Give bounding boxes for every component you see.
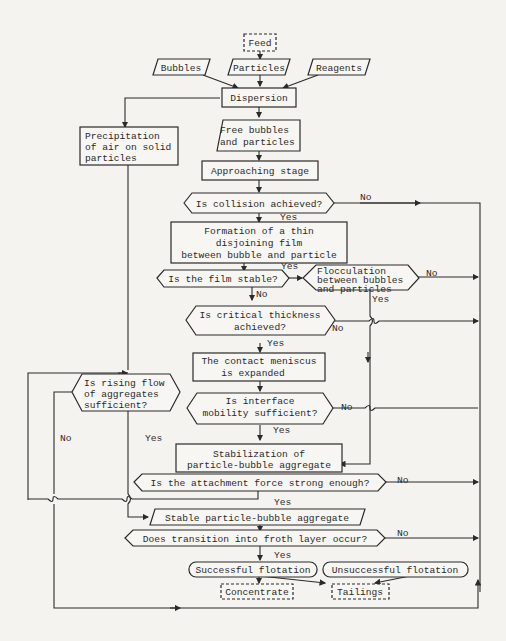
- node-meniscus: The contact meniscus is expanded: [193, 353, 325, 381]
- node-precipitation-line2: of air on solid: [85, 142, 171, 153]
- node-interface-mobility-line2: mobility sufficient?: [202, 408, 317, 419]
- node-collision-label: Is collision achieved?: [196, 199, 323, 210]
- edge-label-interface-yes: Yes: [273, 425, 290, 436]
- node-critical-thickness-line2: achieved?: [234, 322, 286, 333]
- node-approaching-label: Approaching stage: [211, 166, 309, 177]
- node-stable-aggregate: Stable particle-bubble aggregate: [150, 509, 365, 525]
- node-free-bubbles: Free bubbles and particles: [217, 120, 300, 151]
- node-unsuccessful-label: Unsuccessful flotation: [332, 565, 459, 576]
- node-dispersion: Dispersion: [222, 88, 296, 107]
- node-interface-mobility-line1: Is interface: [225, 396, 294, 407]
- node-reagents: Reagents: [308, 59, 370, 75]
- edge-label-critical-yes: Yes: [267, 338, 284, 349]
- node-meniscus-line1: The contact meniscus: [201, 356, 316, 367]
- node-bubbles: Bubbles: [153, 59, 210, 75]
- node-feed-label: Feed: [248, 38, 271, 49]
- edge-label-critical-no: No: [332, 323, 344, 334]
- node-precipitation: Precipitation of air on solid particles: [80, 127, 178, 165]
- node-stable-aggregate-label: Stable particle-bubble aggregate: [165, 513, 349, 524]
- node-attachment-force-label: Is the attachment force strong enough?: [151, 478, 370, 489]
- node-rising-flow-line3: sufficient?: [84, 400, 148, 411]
- edge-label-froth-no: No: [397, 528, 409, 539]
- node-free-bubbles-line1: Free bubbles: [220, 125, 289, 136]
- node-reagents-label: Reagents: [316, 63, 362, 74]
- node-stabilization-line2: particle-bubble aggregate: [187, 460, 331, 471]
- edge-label-collision-no: No: [360, 192, 372, 203]
- node-film-formation: Formation of a thin disjoining film betw…: [171, 222, 347, 263]
- edge-label-film-stable-no: No: [256, 289, 268, 300]
- node-attachment-force: Is the attachment force strong enough?: [134, 474, 386, 491]
- node-froth-transition: Does transition into froth layer occur?: [125, 530, 385, 546]
- edge-label-film-stable-yes: Yes: [281, 261, 298, 272]
- flotation-flowchart: Feed Bubbles Particles Reagents Dispersi…: [0, 0, 506, 641]
- node-film-formation-line2: disjoining film: [216, 238, 303, 249]
- node-collision: Is collision achieved?: [184, 193, 334, 213]
- node-unsuccessful: Unsuccessful flotation: [323, 562, 468, 577]
- node-film-formation-line3: between bubble and particle: [181, 250, 337, 261]
- node-froth-transition-label: Does transition into froth layer occur?: [143, 534, 368, 545]
- node-concentrate: Concentrate: [221, 584, 293, 599]
- node-tailings: Tailings: [332, 584, 389, 599]
- node-precipitation-line3: particles: [85, 153, 137, 164]
- node-stabilization-line1: Stabilization of: [213, 449, 305, 460]
- edge-label-collision-yes: Yes: [280, 212, 297, 223]
- node-particles-label: Particles: [233, 63, 285, 74]
- node-dispersion-label: Dispersion: [230, 93, 288, 104]
- edge-label-interface-no: No: [341, 402, 353, 413]
- node-bubbles-label: Bubbles: [161, 63, 201, 74]
- node-film-formation-line1: Formation of a thin: [204, 226, 313, 237]
- edge-label-attachment-yes: Yes: [274, 497, 291, 508]
- edge-label-flocculation-no: No: [426, 268, 438, 279]
- node-rising-flow-line1: Is rising flow: [84, 378, 165, 389]
- edge-label-froth-yes: Yes: [274, 550, 291, 561]
- node-successful: Successful flotation: [189, 562, 317, 577]
- node-successful-label: Successful flotation: [195, 565, 310, 576]
- node-particles: Particles: [228, 59, 290, 75]
- node-flocculation: Flocculation between bubbles and particl…: [303, 265, 419, 295]
- edge-label-rising-yes: Yes: [145, 433, 162, 444]
- node-stabilization: Stabilization of particle-bubble aggrega…: [176, 444, 342, 472]
- node-critical-thickness: Is critical thickness achieved?: [186, 306, 335, 335]
- node-feed: Feed: [244, 34, 276, 51]
- node-meniscus-line2: is expanded: [221, 368, 284, 379]
- node-film-stable-label: Is the film stable?: [168, 274, 278, 285]
- node-rising-flow-line2: of aggregates: [84, 389, 159, 400]
- node-film-stable: Is the film stable?: [157, 270, 289, 287]
- node-approaching: Approaching stage: [202, 161, 318, 180]
- node-precipitation-line1: Precipitation: [85, 131, 160, 142]
- edge-label-attachment-no: No: [397, 475, 409, 486]
- edge-label-flocculation-yes: Yes: [372, 294, 389, 305]
- node-concentrate-label: Concentrate: [225, 587, 289, 598]
- node-interface-mobility: Is interface mobility sufficient?: [187, 393, 333, 424]
- node-rising-flow: Is rising flow of aggregates sufficient?: [72, 374, 180, 411]
- edge-label-rising-no: No: [60, 433, 72, 444]
- node-tailings-label: Tailings: [337, 587, 383, 598]
- node-free-bubbles-line2: and particles: [220, 137, 295, 148]
- node-critical-thickness-line1: Is critical thickness: [200, 310, 321, 321]
